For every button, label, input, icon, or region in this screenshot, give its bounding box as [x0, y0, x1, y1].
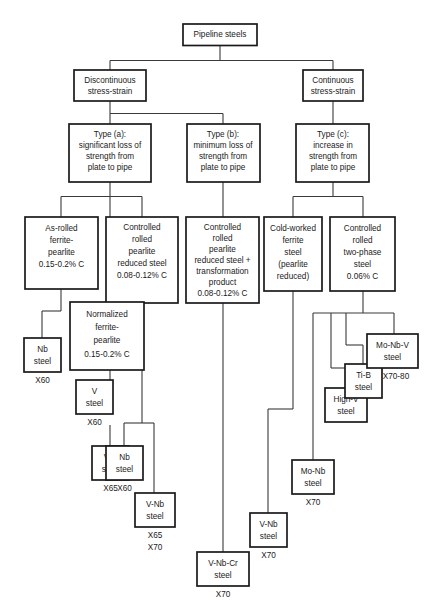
node-label-line-1: V-Nb — [146, 500, 165, 509]
node-label-line-1: Continuous — [312, 76, 353, 85]
node-label-line-4: plate to pipe — [311, 163, 356, 172]
node-label-line-4: plate to pipe — [201, 163, 246, 172]
node-label-line-6: product — [209, 278, 237, 287]
node-v-nb-cr-steel-x70[interactable]: V-Nb-Cr steel X70 — [197, 552, 249, 599]
node-label-line-1: Nb — [37, 345, 48, 354]
node-label-line-2: steel — [304, 479, 321, 488]
grade-label: X60 — [117, 484, 132, 493]
node-label-line-1: Normalized — [86, 310, 128, 319]
node-controlled-rolled-pearlite-reduced[interactable]: Controlled rolled pearlite reduced steel… — [106, 217, 178, 303]
node-box — [367, 334, 418, 368]
node-label-line-4: plate to pipe — [88, 163, 133, 172]
node-v-steel-x60[interactable]: V steel X60 — [76, 380, 113, 427]
node-mo-nb-steel-x70[interactable]: Mo-Nb steel X70 — [292, 460, 334, 507]
node-label-line-2: steel — [116, 465, 133, 474]
node-label-line-5: 0.08-0.12% C — [117, 271, 167, 280]
node-label-line-1: Cold-worked — [270, 224, 316, 233]
node-label-line-2: steel — [214, 571, 231, 580]
node-label-line-3: pearlite — [209, 245, 236, 254]
grade-label: X70 — [306, 498, 321, 507]
node-type-a[interactable]: Type (a): significant loss of strength f… — [69, 124, 151, 182]
node-label-line-2: steel — [86, 399, 103, 408]
grade-label: X70 — [261, 551, 276, 560]
node-label-line-4: 0.15-0.2% C — [39, 260, 85, 269]
node-label-line-2: ferrite- — [50, 236, 74, 245]
node-label-line-4: reduced steel — [117, 259, 166, 268]
node-box — [106, 446, 143, 480]
node-normalized-ferrite-pearlite[interactable]: Normalized ferrite- pearlite 0.15-0.2% C — [70, 302, 144, 370]
node-label-line-5: 0.06% C — [347, 272, 378, 281]
node-label-line-4: reduced steel + — [194, 256, 250, 265]
node-box — [74, 70, 146, 101]
node-pipeline-steels[interactable]: Pipeline steels — [183, 24, 257, 46]
node-label-line-5: transformation — [196, 267, 249, 276]
node-label-line-2: stress-strain — [88, 87, 133, 96]
node-cold-worked-ferrite-steel[interactable]: Cold-worked ferrite steel (pearlite redu… — [264, 217, 322, 291]
node-label-line-2: ferrite- — [95, 323, 119, 332]
pipeline-steels-flowchart: Pipeline steels Discontinuous stress-str… — [0, 0, 439, 613]
node-label-line-1: V-Nb-Cr — [208, 559, 238, 568]
grade-label-1: X65 — [148, 531, 163, 540]
node-box — [292, 460, 334, 494]
node-label-line-1: Discontinuous — [84, 76, 135, 85]
node-label-line-3: pearlite — [48, 248, 75, 257]
node-nb-steel-x60-a[interactable]: Nb steel X60 — [24, 338, 61, 385]
node-label-line-2: increase in — [313, 141, 353, 150]
grade-label: X60 — [35, 376, 50, 385]
node-label-line-2: steel — [384, 353, 401, 362]
node-label-line-4: (pearlite — [278, 260, 308, 269]
node-v-nb-steel-x65-x70[interactable]: V-Nb steel X65 X70 — [135, 493, 175, 552]
node-label-line-2: rolled — [132, 235, 152, 244]
node-type-c[interactable]: Type (c): increase in strength from plat… — [296, 124, 369, 182]
node-label-line-1: Type (a): — [94, 130, 126, 139]
node-label-line-2: significant loss of — [79, 141, 142, 150]
node-label-line-2: rolled — [352, 236, 372, 245]
node-label-line-2: rolled — [212, 234, 232, 243]
node-box — [345, 364, 382, 398]
node-label-line-2: steel — [34, 357, 51, 366]
node-controlled-rolled-two-phase[interactable]: Controlled rolled two-phase steel 0.06% … — [330, 217, 395, 291]
node-discontinuous[interactable]: Discontinuous stress-strain — [74, 70, 146, 101]
node-label-line-2: ferrite — [283, 236, 304, 245]
node-label-line-3: pearlite — [129, 247, 156, 256]
node-label-line-1: As-rolled — [45, 224, 78, 233]
node-label-line-1: V — [92, 387, 98, 396]
node-controlled-rolled-pearlite-transformation[interactable]: Controlled rolled pearlite reduced steel… — [186, 217, 259, 303]
grade-label: X70-80 — [383, 372, 410, 381]
node-as-rolled-ferrite-pearlite[interactable]: As-rolled ferrite- pearlite 0.15-0.2% C — [25, 217, 98, 289]
node-label-line-1: Mo-Nb — [301, 467, 326, 476]
node-continuous[interactable]: Continuous stress-strain — [303, 70, 363, 101]
node-label-line-1: V-Nb — [259, 520, 278, 529]
node-ti-b-steel[interactable]: Ti-B steel — [345, 364, 382, 398]
node-label-line-2: stress-strain — [311, 87, 356, 96]
node-label-line-2: steel — [355, 383, 372, 392]
node-v-nb-steel-x70[interactable]: V-Nb steel X70 — [250, 513, 287, 560]
node-label-line-3: strength from — [86, 152, 134, 161]
node-label-line-7: 0.08-0.12% C — [197, 289, 247, 298]
node-label-line-3: pearlite — [94, 336, 121, 345]
node-label-line-1: Type (c): — [317, 130, 349, 139]
node-box — [24, 338, 61, 372]
node-label-line-3: strength from — [199, 152, 247, 161]
node-label-line-2: steel — [146, 512, 163, 521]
node-label-line-1: Mo-Nb-V — [376, 341, 409, 350]
node-box — [135, 493, 175, 527]
grade-label-2: X70 — [148, 543, 163, 552]
node-label-line-3: steel — [284, 248, 301, 257]
node-box — [76, 380, 113, 414]
node-type-b[interactable]: Type (b): minimum loss of strength from … — [187, 124, 260, 182]
node-label-line-1: Controlled — [344, 224, 382, 233]
node-label-line-4: steel — [354, 260, 371, 269]
node-label-line-3: two-phase — [344, 248, 382, 257]
node-label-line-1: Controlled — [204, 223, 242, 232]
diagram-page: Pipeline steels Discontinuous stress-str… — [0, 0, 439, 613]
grade-label: X70 — [216, 590, 231, 599]
node-box — [303, 70, 363, 101]
node-box — [197, 552, 249, 586]
node-label-line-1: Ti-B — [356, 371, 371, 380]
node-label-line-1: Nb — [119, 453, 130, 462]
node-box — [250, 513, 287, 547]
node-label: Pipeline steels — [194, 30, 247, 39]
node-label-line-4: 0.15-0.2% C — [84, 350, 130, 359]
grade-label: X65 — [103, 484, 118, 493]
